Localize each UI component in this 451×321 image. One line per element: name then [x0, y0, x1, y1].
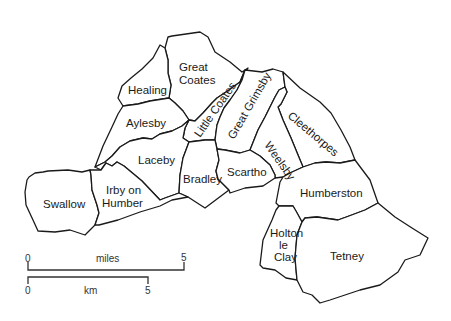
scale-miles-start: 0 [25, 253, 31, 264]
scale-bar-km: 0 km 5 [25, 277, 151, 296]
scale-miles-end: 5 [181, 252, 187, 263]
scale-km-start: 0 [25, 285, 31, 296]
label-irby-on-humber-2: Humber [102, 197, 143, 209]
scale-km-unit: km [84, 285, 97, 296]
label-holton-le-clay-3: Clay [274, 251, 297, 263]
label-laceby: Laceby [138, 154, 175, 166]
label-holton-le-clay-2: le [279, 239, 288, 251]
label-scartho: Scartho [227, 166, 267, 178]
parish-healing[interactable] [118, 45, 171, 106]
label-great-coates-2: Coates [179, 74, 216, 86]
label-swallow: Swallow [43, 198, 86, 210]
parish-map: Great Coates Healing Aylesby Little Coat… [0, 0, 451, 321]
scale-bar-miles: 0 miles 5 [25, 252, 187, 270]
label-healing: Healing [128, 84, 167, 96]
label-bradley: Bradley [183, 173, 222, 185]
scale-km-end: 5 [145, 285, 151, 296]
label-aylesby: Aylesby [126, 117, 166, 129]
scale-miles-unit: miles [96, 253, 119, 264]
label-holton-le-clay: Holton [270, 227, 303, 239]
label-irby-on-humber: Irby on [106, 184, 141, 196]
label-great-coates: Great [179, 61, 209, 73]
label-humberston: Humberston [300, 187, 363, 199]
label-tetney: Tetney [330, 250, 364, 262]
